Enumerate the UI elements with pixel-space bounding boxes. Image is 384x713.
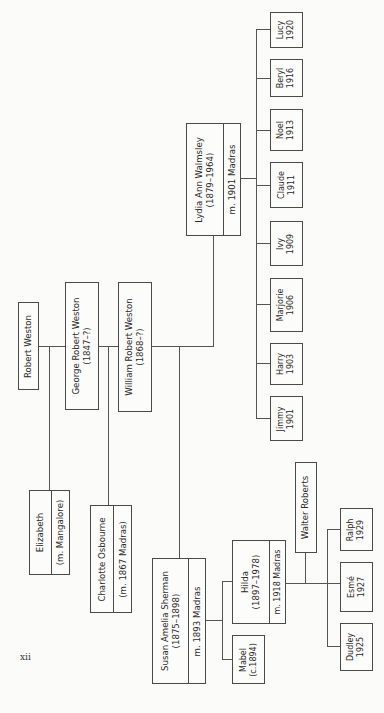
marriage-note: (m. Mangalore) [56, 500, 67, 566]
connector [152, 346, 213, 347]
child-year: 1925 [357, 637, 367, 657]
child-name: Lucy [276, 21, 286, 40]
connector [38, 346, 65, 347]
person-name: Charlotte Osbourne [97, 517, 108, 601]
connector [213, 235, 214, 347]
connector [305, 552, 306, 583]
person-name: Mabel [239, 647, 249, 671]
connector [327, 646, 340, 647]
person-dates: (1847–?) [82, 327, 93, 364]
child-year: 1901 [287, 408, 297, 428]
person-dates: (1879–1964) [205, 152, 216, 207]
person-george-robert-weston: George Robert Weston (1847–?) [65, 282, 99, 410]
child-year: 1913 [286, 120, 296, 140]
child-lucy: Lucy 1920 [270, 12, 303, 48]
person-name: Lydia Ann Walmsley [194, 137, 205, 223]
connector [256, 363, 270, 364]
person-name: Robert Weston [23, 314, 34, 377]
person-dates: (1897–1978) [251, 555, 262, 610]
child-ivy: Ivy 1909 [270, 221, 303, 266]
connector [285, 583, 327, 584]
connector [256, 418, 270, 419]
connector [222, 659, 232, 660]
person-elizabeth: Elizabeth (m. Mangalore) [29, 490, 70, 575]
person-charlotte-osbourne: Charlotte Osbourne (m. 1867 Madras) [90, 505, 132, 613]
child-name: Ivy [276, 238, 286, 250]
marriage-note: m. 1893 Madras [192, 586, 203, 656]
person-robert-weston: Robert Weston [18, 302, 39, 390]
person-william-robert-weston: William Robert Weston (1868–?) [118, 282, 152, 412]
person-name: Hilda [240, 571, 251, 593]
child-year: 1927 [357, 577, 367, 597]
marriage-note: (m. 1867 Madras) [118, 521, 129, 598]
child-name: Noel [276, 121, 286, 139]
marriage-note: m. 1918 Madras [273, 549, 283, 614]
connector [327, 529, 340, 530]
child-beryl: Beryl 1916 [270, 59, 303, 97]
child-marjorie: Marjorie 1906 [270, 278, 303, 332]
connector [222, 581, 223, 659]
child-year: 1909 [286, 233, 296, 253]
child-name: Marjorie [277, 289, 287, 322]
person-name: Susan Amelia Sherman [160, 571, 171, 671]
person-hilda: Hilda (1897–1978) m. 1918 Madras [232, 540, 286, 624]
person-name: William Robert Weston [124, 298, 135, 395]
child-claude: Claude 1911 [270, 162, 303, 208]
child-ralph: Ralph 1929 [340, 508, 373, 551]
person-susan-amelia-sherman: Susan Amelia Sherman (1875–1898) m. 1893… [152, 558, 206, 684]
child-jimmy: Jimmy 1901 [270, 396, 303, 441]
child-esme: Esmé 1927 [340, 562, 373, 612]
child-name: Harry [277, 353, 287, 375]
child-name: Beryl [277, 68, 287, 89]
child-name: Jimmy [277, 406, 287, 431]
child-year: 1929 [357, 519, 367, 539]
connector [108, 346, 109, 505]
person-dates: (c.1894) [249, 643, 259, 677]
child-year: 1906 [287, 295, 297, 315]
child-year: 1916 [287, 68, 297, 88]
child-noel: Noel 1913 [270, 109, 303, 151]
connector [327, 529, 328, 647]
person-mabel: Mabel (c.1894) [232, 635, 265, 684]
person-lydia-ann-walmsley: Lydia Ann Walmsley (1879–1964) m. 1901 M… [186, 123, 241, 236]
person-name: George Robert Weston [71, 297, 82, 394]
connector [256, 29, 270, 30]
connector [49, 346, 50, 490]
connector [327, 583, 340, 584]
child-name: Claude [277, 171, 287, 199]
child-name: Esmé [347, 576, 357, 598]
connector [256, 29, 257, 419]
marriage-note: m. 1901 Madras [227, 145, 238, 215]
child-year: 1903 [287, 354, 297, 374]
connector [256, 78, 270, 79]
page-number: xii [20, 652, 31, 662]
child-name: Dudley [347, 633, 357, 661]
connector [222, 581, 232, 582]
child-year: 1920 [286, 20, 296, 40]
person-name: Walter Roberts [301, 476, 312, 540]
person-dates: (1875–1898) [171, 594, 182, 649]
person-walter-roberts: Walter Roberts [295, 462, 317, 553]
connector [256, 185, 270, 186]
child-year: 1911 [287, 175, 297, 195]
connector [256, 243, 270, 244]
child-harry: Harry 1903 [270, 343, 303, 385]
connector [205, 620, 222, 621]
connector [179, 346, 180, 558]
person-name: Elizabeth [35, 513, 46, 553]
connector [256, 130, 270, 131]
child-name: Ralph [347, 518, 357, 541]
connector [240, 178, 256, 179]
connector [256, 304, 270, 305]
person-dates: (1868–?) [135, 328, 146, 365]
child-dudley: Dudley 1925 [340, 623, 373, 671]
